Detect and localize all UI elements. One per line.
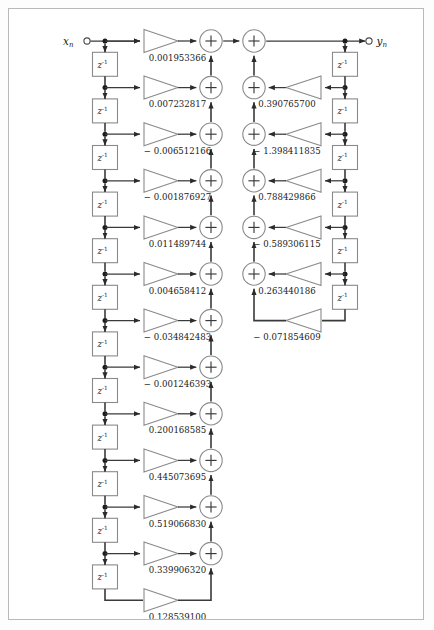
output-tap-dot [343, 39, 348, 44]
input-label: xn [63, 35, 74, 50]
coef-label-ff-0: 0.001953366 [149, 53, 206, 63]
delay-left-7: z-1 [93, 379, 118, 403]
adder-left-11 [200, 542, 222, 564]
gain-triangle-ff-2 [144, 123, 178, 146]
coef-label-ff-5: 0.004658412 [149, 286, 206, 296]
delay-right-5: z-1 [333, 285, 358, 309]
last-delay-out-wire [105, 589, 143, 600]
adder-left-5 [200, 263, 222, 285]
gain-triangle-ff-10 [144, 496, 178, 519]
adder-right-1 [243, 76, 265, 98]
adder-left-7 [200, 356, 222, 378]
delay-left-2: z-1 [93, 146, 118, 170]
delay-right-4: z-1 [333, 239, 358, 263]
adder-left-3 [200, 170, 222, 192]
coef-label-ff-9: 0.445073695 [149, 472, 206, 482]
coef-label-ff-7: − 0.001246393 [144, 379, 211, 389]
adder-right-5 [243, 263, 265, 285]
delay-right-0: z-1 [333, 52, 358, 76]
diagram-frame: z-1z-1z-1z-1z-1z-1z-1z-1z-1z-1z-1z-1z-1z… [8, 8, 424, 620]
output-label: yn [376, 35, 388, 50]
gain-triangle-ff-4 [144, 216, 178, 239]
coef-label-ff-3: − 0.001876927 [144, 192, 211, 202]
delay-left-0: z-1 [93, 52, 118, 76]
adder-right-3 [243, 170, 265, 192]
delay-left-9: z-1 [93, 472, 118, 496]
gain-triangle-ff-5 [144, 263, 178, 286]
adder-left-8 [200, 403, 222, 425]
gain-triangle-fb-3 [286, 216, 321, 239]
coef-label-ff-6: − 0.034842483 [144, 332, 211, 342]
output-terminal [366, 38, 372, 44]
delay-right-2: z-1 [333, 146, 358, 170]
delay-left-6: z-1 [93, 332, 118, 356]
adder-left-10 [200, 496, 222, 518]
delay-left-8: z-1 [93, 425, 118, 449]
coef-label-fb-2: 0.788429866 [258, 192, 315, 202]
adder-left-0 [200, 30, 222, 52]
delay-left-4: z-1 [93, 239, 118, 263]
input-terminal [84, 38, 90, 44]
gain-triangle-fb-5 [286, 309, 321, 332]
diagram-page: z-1z-1z-1z-1z-1z-1z-1z-1z-1z-1z-1z-1z-1z… [0, 0, 434, 630]
gain-triangle-ff-8 [144, 402, 178, 425]
adder-right-2 [243, 123, 265, 145]
adder-left-2 [200, 123, 222, 145]
gain-triangle-ff-12 [144, 589, 178, 612]
gain-triangle-ff-3 [144, 169, 178, 192]
gain-triangle-ff-7 [144, 356, 178, 379]
coef-label-ff-12: 0.128539100 [149, 612, 206, 619]
gain-triangle-fb-4 [286, 263, 321, 286]
coef-label-ff-11: 0.339906320 [149, 565, 206, 575]
gain-triangle-fb-0 [286, 76, 321, 99]
gain-triangle-fb-1 [286, 123, 321, 146]
coef-label-fb-0: 0.390765700 [258, 99, 315, 109]
gain-triangle-fb-2 [286, 169, 321, 192]
delay-right-1: z-1 [333, 99, 358, 123]
adder-right-4 [243, 216, 265, 238]
coef-label-fb-1: − 1.398411835 [253, 146, 320, 156]
adder-left-1 [200, 76, 222, 98]
signal-flow-graph: z-1z-1z-1z-1z-1z-1z-1z-1z-1z-1z-1z-1z-1z… [9, 9, 423, 619]
delay-left-10: z-1 [93, 518, 118, 542]
coef-label-fb-3: − 0.589306115 [253, 239, 320, 249]
delay-right-3: z-1 [333, 192, 358, 216]
adder-right-0 [243, 30, 265, 52]
adder-left-4 [200, 216, 222, 238]
coef-label-ff-8: 0.200168585 [149, 425, 206, 435]
adder-left-9 [200, 449, 222, 471]
gain-triangle-ff-1 [144, 76, 178, 99]
gain-triangle-ff-11 [144, 542, 178, 565]
delay-left-3: z-1 [93, 192, 118, 216]
delay-left-11: z-1 [93, 565, 118, 589]
coef-label-fb-5: − 0.071854609 [253, 332, 320, 342]
gain-triangle-ff-0 [144, 30, 178, 53]
delay-left-5: z-1 [93, 285, 118, 309]
last-delay-out-wire-right [322, 309, 345, 320]
delay-left-1: z-1 [93, 99, 118, 123]
coef-label-ff-2: − 0.006512166 [144, 146, 211, 156]
adder-left-6 [200, 309, 222, 331]
gain-triangle-ff-6 [144, 309, 178, 332]
coef-label-fb-4: 0.263440186 [258, 286, 315, 296]
coef-label-ff-10: 0.519066830 [149, 519, 206, 529]
coef-label-ff-4: 0.011489744 [149, 239, 207, 249]
gain-triangle-ff-9 [144, 449, 178, 472]
coef-label-ff-1: 0.007232817 [149, 99, 206, 109]
